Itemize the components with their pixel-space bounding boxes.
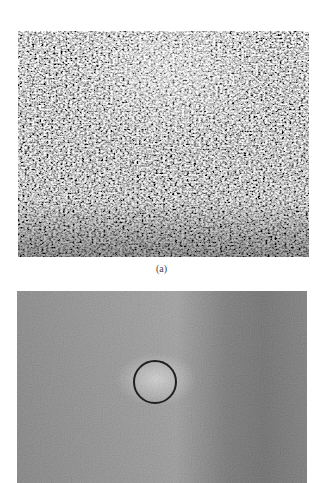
speckle-image-panel-a — [18, 31, 309, 257]
highlight-circle-marker — [133, 360, 177, 404]
speckle-image — [18, 31, 309, 257]
panel-a-caption: (a) — [0, 263, 323, 274]
